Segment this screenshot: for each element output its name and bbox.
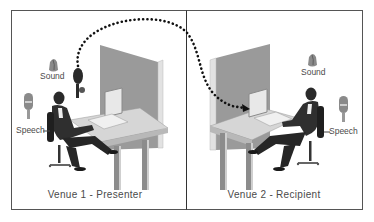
venue-1-sound-label: Sound bbox=[40, 71, 65, 81]
monitor-icon bbox=[105, 88, 122, 117]
venue-1-speech-label: Speech bbox=[16, 125, 45, 135]
desk-leg bbox=[147, 140, 149, 190]
telepresence-diagram: Sound Speech Sound Speech Venue 1 - Pres… bbox=[0, 0, 374, 222]
partition-panel-edge bbox=[210, 58, 216, 150]
venue-2-speech-label: Speech bbox=[329, 126, 358, 136]
venue-2-sound-label: Sound bbox=[301, 67, 326, 77]
desk-leg bbox=[246, 143, 251, 190]
desk-leg bbox=[142, 140, 147, 190]
venue-2-caption: Venue 2 - Recipient bbox=[228, 189, 321, 200]
venue-1-caption: Venue 1 - Presenter bbox=[48, 189, 143, 200]
desk-leg bbox=[119, 146, 121, 190]
desk-leg bbox=[225, 133, 227, 190]
monitor-icon bbox=[249, 89, 267, 117]
desk-leg bbox=[220, 133, 225, 190]
